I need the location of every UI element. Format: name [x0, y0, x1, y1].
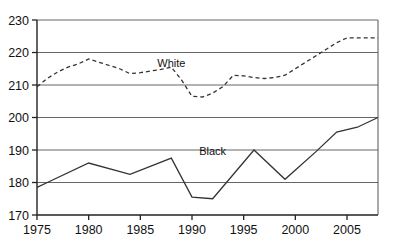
gridlines	[37, 20, 378, 183]
x-tick-label: 1975	[23, 223, 51, 237]
y-tick-label: 200	[8, 111, 29, 125]
x-tick-label: 2000	[281, 223, 309, 237]
y-tick-label: 170	[8, 209, 29, 223]
x-tick-label: 1985	[126, 223, 154, 237]
series-line-black	[37, 118, 378, 199]
chart-canvas: 170180190200210220230 197519801985199019…	[0, 0, 395, 246]
y-tick-label: 180	[8, 176, 29, 190]
y-axis-ticks: 170180190200210220230	[8, 14, 37, 223]
x-tick-label: 2005	[333, 223, 361, 237]
series-line-white	[37, 38, 378, 97]
x-tick-label: 1990	[178, 223, 206, 237]
y-tick-label: 230	[8, 14, 29, 28]
line-chart: 170180190200210220230 197519801985199019…	[0, 0, 395, 246]
y-tick-label: 220	[8, 46, 29, 60]
series-label-white: White	[157, 57, 185, 69]
x-tick-label: 1980	[75, 223, 103, 237]
series-label-black: Black	[199, 145, 226, 157]
x-axis-ticks: 1975198019851990199520002005	[23, 215, 361, 237]
x-tick-label: 1995	[230, 223, 258, 237]
y-tick-label: 210	[8, 79, 29, 93]
y-tick-label: 190	[8, 144, 29, 158]
